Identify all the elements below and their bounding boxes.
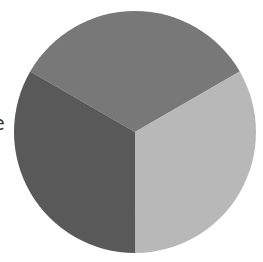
pie-chart bbox=[0, 0, 263, 262]
pie-slices bbox=[14, 11, 256, 253]
